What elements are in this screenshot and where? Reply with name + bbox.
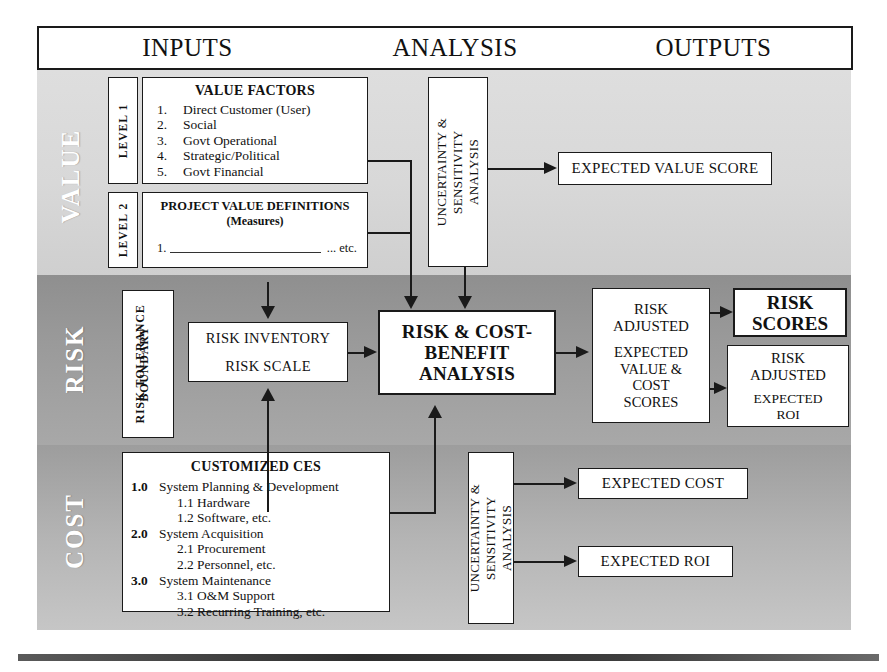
arrowhead-expected-cost — [564, 477, 577, 489]
header-cell-inputs: INPUTS — [37, 26, 338, 70]
rar-line4: ROI — [754, 407, 823, 423]
risk-tolerance-boundary-box: RISK TOLERANCE BOUNDARY — [122, 290, 174, 438]
header-label-analysis: ANALYSIS — [392, 34, 517, 62]
level-2-label: LEVEL 2 — [117, 203, 129, 258]
risk-scores-box: RISK SCORES — [733, 288, 847, 337]
ces-item: 3.0System Maintenance — [131, 573, 389, 589]
swimlane-label-value: VALUE — [57, 116, 85, 236]
uncertainty-sensitivity-analysis-cost-box: UNCERTAINTY & SENSITIVITY ANALYSIS — [468, 452, 514, 624]
expected-cost-label: EXPECTED COST — [602, 475, 725, 492]
uncertainty-value-line2: SENSITIVITY — [450, 118, 466, 227]
arrowhead-into-rcba-top-left — [404, 296, 418, 309]
ces-item: 2.2 Personnel, etc. — [131, 557, 389, 573]
connector-ces-up — [434, 418, 436, 514]
rcba-line3: ANALYSIS — [419, 363, 515, 384]
uncertainty-cost-text: UNCERTAINTY & SENSITIVITY ANALYSIS — [467, 484, 515, 593]
risk-inventory-box: RISK INVENTORY RISK SCALE — [188, 322, 348, 382]
connector-unc-cost-to-expected-cost — [514, 483, 566, 485]
risk-adjusted-heading: RISK ADJUSTED — [613, 301, 689, 335]
ces-item-label: 3.1 O&M Support — [177, 588, 275, 603]
customized-ces-list: 1.0System Planning & Development1.1 Hard… — [123, 479, 389, 619]
connector-unc-cost-to-expected-roi — [514, 561, 566, 563]
header-label-outputs: OUTPUTS — [655, 34, 771, 62]
header-label-inputs: INPUTS — [142, 34, 233, 62]
ces-item-label: 1.2 Software, etc. — [177, 510, 271, 525]
uncertainty-value-line3: ANALYSIS — [466, 118, 482, 227]
risk-adjusted-line2: ADJUSTED — [613, 318, 689, 335]
risk-scores-line2: SCORES — [752, 313, 828, 334]
arrowhead-expected-roi — [564, 555, 577, 567]
ces-item-number: 2.0 — [131, 526, 159, 542]
ces-item: 2.1 Procurement — [131, 541, 389, 557]
connector-into-risk-inventory — [267, 282, 269, 308]
diagram-canvas: INPUTS ANALYSIS OUTPUTS VALUE RISK COST … — [0, 0, 887, 672]
arrowhead-into-rcba-top-right — [458, 296, 472, 309]
risk-adjusted-line5: COST — [614, 377, 688, 394]
value-factor-item: 5.Govt Financial — [157, 164, 367, 179]
level-1-label: LEVEL 1 — [117, 103, 129, 158]
risk-cost-benefit-analysis-box: RISK & COST- BENEFIT ANALYSIS — [378, 310, 556, 395]
ces-item-label: 3.2 Recurring Training, etc. — [177, 604, 325, 619]
pvd-entry-row: 1. ... etc. — [143, 241, 367, 256]
expected-value-score-box: EXPECTED VALUE SCORE — [558, 152, 772, 185]
uncertainty-value-text: UNCERTAINTY & SENSITIVITY ANALYSIS — [434, 118, 482, 227]
value-factors-title: VALUE FACTORS — [195, 83, 315, 99]
value-factor-number: 3. — [157, 133, 183, 148]
uncertainty-sensitivity-analysis-value-box: UNCERTAINTY & SENSITIVITY ANALYSIS — [428, 77, 488, 267]
risk-adjusted-line4: VALUE & — [614, 361, 688, 378]
customized-ces-title: CUSTOMIZED CES — [191, 459, 321, 475]
expected-roi-label: EXPECTED ROI — [601, 553, 711, 570]
header-cell-analysis: ANALYSIS — [334, 26, 578, 70]
value-factor-number: 5. — [157, 164, 183, 179]
expected-cost-box: EXPECTED COST — [578, 468, 748, 499]
risk-tolerance-boundary-line2: BOUNDARY — [137, 326, 152, 401]
arrowhead-risk-scores — [720, 306, 733, 318]
uncertainty-cost-line2: SENSITIVITY — [483, 484, 499, 593]
ces-item-label: 2.1 Procurement — [177, 541, 266, 556]
connector-l2-right — [368, 232, 412, 234]
value-factor-label: Direct Customer (User) — [183, 102, 310, 117]
arrowhead-rcba-bottom — [428, 405, 442, 418]
expected-value-score-label: EXPECTED VALUE SCORE — [571, 160, 758, 177]
connector-ces-up-to-inventory — [267, 400, 269, 512]
risk-adjusted-line6: SCORES — [614, 394, 688, 411]
arrowhead-rcba-left — [364, 346, 377, 358]
ces-item-number: 1.0 — [131, 479, 159, 495]
risk-scale-label: RISK SCALE — [225, 358, 311, 375]
ces-item: 1.2 Software, etc. — [131, 510, 389, 526]
pvd-blank-rule — [170, 242, 320, 253]
ces-item-label: System Planning & Development — [159, 479, 339, 494]
expected-roi-box: EXPECTED ROI — [578, 546, 733, 577]
value-factor-label: Social — [183, 117, 217, 132]
value-factor-item: 3.Govt Operational — [157, 133, 367, 148]
arrowhead-risk-inventory-top — [261, 306, 275, 319]
value-factor-label: Govt Operational — [183, 133, 277, 148]
connector-unc-value-to-evs — [488, 168, 546, 170]
project-value-definitions-box: PROJECT VALUE DEFINITIONS (Measures) 1. … — [142, 192, 368, 268]
rar-line3: EXPECTED — [754, 391, 823, 407]
ces-item: 1.1 Hardware — [131, 495, 389, 511]
ces-item-label: System Maintenance — [159, 573, 271, 588]
risk-inventory-label: RISK INVENTORY — [206, 330, 330, 347]
risk-adjusted-line1: RISK — [613, 301, 689, 318]
customized-ces-box: CUSTOMIZED CES 1.0System Planning & Deve… — [122, 452, 390, 612]
pvd-entry-number: 1. — [157, 241, 166, 256]
arrowhead-expected-value-score — [544, 162, 557, 174]
value-factor-item: 1.Direct Customer (User) — [157, 102, 367, 117]
risk-adjusted-body: EXPECTED VALUE & COST SCORES — [614, 344, 688, 410]
connector-ces-right — [390, 512, 436, 514]
connector-rcba-to-risk-adjusted — [556, 352, 578, 354]
connector-l1-down — [410, 160, 412, 300]
arrowhead-risk-adjusted-roi — [714, 382, 727, 394]
value-factor-number: 4. — [157, 148, 183, 163]
value-factor-label: Strategic/Political — [183, 148, 280, 163]
swimlane-label-risk: RISK — [61, 299, 89, 419]
header-cell-outputs: OUTPUTS — [576, 26, 853, 70]
value-factor-item: 2.Social — [157, 117, 367, 132]
value-factor-item: 4.Strategic/Political — [157, 148, 367, 163]
pvd-title: PROJECT VALUE DEFINITIONS — [161, 199, 350, 214]
value-factor-label: Govt Financial — [183, 164, 264, 179]
pvd-subtitle: (Measures) — [226, 214, 283, 229]
ces-item: 3.2 Recurring Training, etc. — [131, 604, 389, 620]
ces-item-label: System Acquisition — [159, 526, 264, 541]
